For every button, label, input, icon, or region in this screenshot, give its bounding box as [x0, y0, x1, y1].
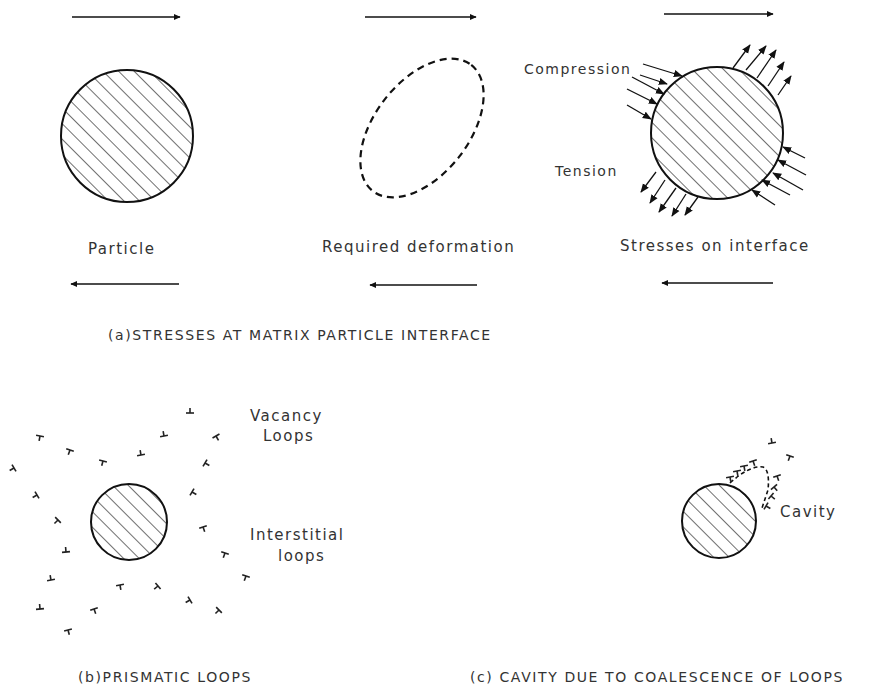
vacancy-label-line1: Vacancy — [250, 407, 323, 425]
particle-label: Particle — [88, 240, 155, 258]
deformation-ellipse — [336, 36, 509, 220]
vacancy-label-line2: Loops — [263, 427, 314, 445]
panel-c-caption: (c) CAVITY DUE TO COALESCENCE OF LOOPS — [470, 669, 844, 685]
prismatic-particle-circle — [91, 484, 167, 560]
interstitial-label-line1: Interstitial — [250, 526, 344, 544]
deformation-label: Required deformation — [322, 238, 515, 256]
diagram-canvas — [0, 0, 872, 700]
panel-b-caption: (b)PRISMATIC LOOPS — [78, 669, 252, 685]
stresses-label: Stresses on interface — [620, 237, 810, 255]
cavity-label: Cavity — [780, 503, 836, 521]
tension-label: Tension — [555, 163, 618, 179]
cavity-particle-circle — [682, 484, 756, 558]
stressed-particle-circle — [651, 67, 783, 199]
compression-label: Compression — [524, 61, 631, 77]
interstitial-label-line2: loops — [278, 547, 325, 565]
particle-circle — [61, 70, 193, 202]
panel-a-caption: (a)STRESSES AT MATRIX PARTICLE INTERFACE — [108, 327, 492, 343]
